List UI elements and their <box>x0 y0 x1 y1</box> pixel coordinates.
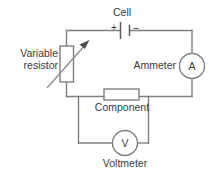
component-label: Component <box>88 101 156 113</box>
variable-resistor-body <box>60 46 74 82</box>
voltmeter-label: Voltmeter <box>92 157 158 169</box>
voltmeter-symbol-letter: V <box>115 138 135 149</box>
variable-resistor-label: Variable resistor <box>2 47 58 71</box>
cell-negative-sign: – <box>131 23 141 33</box>
circuit-diagram: Cell Variable resistor Ammeter Component… <box>0 0 219 175</box>
component-body <box>104 89 139 100</box>
variable-resistor-arrow-head <box>80 40 90 49</box>
ammeter-label: Ammeter <box>122 59 176 71</box>
cell-positive-sign: + <box>109 23 119 33</box>
ammeter-symbol-letter: A <box>182 61 202 72</box>
cell-label: Cell <box>97 6 147 18</box>
